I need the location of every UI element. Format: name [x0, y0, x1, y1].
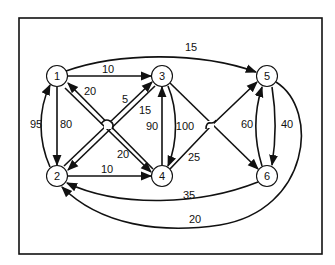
edge-label-6-5: 60 — [241, 118, 253, 130]
edge-label-1-3: 10 — [102, 63, 114, 75]
node-1: 1 — [47, 66, 68, 87]
graph-diagram: 1 2 3 4 5 6 10 15 80 95 20 20 5 15 10 90… — [0, 0, 335, 265]
edge-label-1-2: 80 — [60, 118, 72, 130]
edge-5-6 — [272, 87, 275, 165]
edge-label-4-3: 90 — [146, 120, 158, 132]
node-2-label: 2 — [54, 170, 60, 182]
edge-label-4-1: 20 — [84, 85, 96, 97]
node-5-label: 5 — [264, 70, 270, 82]
edge-label-5-6: 40 — [281, 118, 293, 130]
edge-2-1 — [41, 85, 50, 167]
edge-label-3-2: 15 — [139, 104, 151, 116]
edge-label-3-4: 100 — [176, 120, 194, 132]
node-3-label: 3 — [159, 70, 165, 82]
edge-label-6-2: 35 — [183, 189, 195, 201]
edge-3-4 — [168, 86, 176, 166]
edge-label-5-2: 20 — [189, 213, 201, 225]
node-6: 6 — [257, 166, 278, 187]
node-4-label: 4 — [159, 170, 165, 182]
edge-label-1-5: 15 — [185, 41, 197, 53]
node-3: 3 — [152, 66, 173, 87]
node-2: 2 — [47, 166, 68, 187]
edge-label-4-5: 25 — [188, 151, 200, 163]
diagram-frame — [19, 18, 322, 254]
node-1-label: 1 — [54, 70, 60, 82]
edge-label-1-4: 20 — [117, 148, 129, 160]
edge-6-5 — [256, 87, 262, 166]
edge-5-2 — [62, 82, 301, 228]
edge-label-2-1: 95 — [30, 118, 42, 130]
node-5: 5 — [257, 66, 278, 87]
node-6-label: 6 — [264, 170, 270, 182]
node-4: 4 — [152, 166, 173, 187]
edge-label-2-3: 5 — [122, 93, 128, 105]
edge-label-2-4: 10 — [101, 163, 113, 175]
